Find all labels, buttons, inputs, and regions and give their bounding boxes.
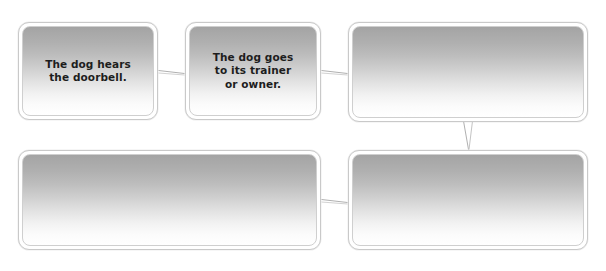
flow-box-step-3-blank[interactable] bbox=[348, 22, 588, 122]
flow-box-panel bbox=[352, 154, 584, 246]
flow-box-text-step-3 bbox=[460, 72, 476, 73]
flow-box-panel: The dog hears the doorbell. bbox=[22, 26, 154, 116]
connector-step3-to-step4 bbox=[464, 121, 473, 150]
connector-step2-to-step3 bbox=[322, 71, 348, 76]
flow-box-panel bbox=[352, 26, 584, 118]
flow-box-text-step-2: The dog goes to its trainer or owner. bbox=[205, 51, 302, 92]
connector-step1-to-step2 bbox=[159, 71, 185, 76]
connector-step4-to-step5 bbox=[322, 200, 348, 205]
flow-box-step-4-blank[interactable] bbox=[348, 150, 588, 250]
diagram-canvas: The dog hears the doorbell. The dog goes… bbox=[0, 0, 606, 271]
flow-box-step-1[interactable]: The dog hears the doorbell. bbox=[18, 22, 158, 120]
flow-box-step-5-blank[interactable] bbox=[18, 150, 321, 250]
flow-box-text-step-1: The dog hears the doorbell. bbox=[37, 58, 139, 85]
flow-box-text-step-4 bbox=[460, 200, 476, 201]
flow-box-text-step-5 bbox=[162, 200, 178, 201]
flow-box-panel: The dog goes to its trainer or owner. bbox=[189, 26, 317, 116]
flow-box-step-2[interactable]: The dog goes to its trainer or owner. bbox=[185, 22, 321, 120]
flow-box-panel bbox=[22, 154, 317, 246]
